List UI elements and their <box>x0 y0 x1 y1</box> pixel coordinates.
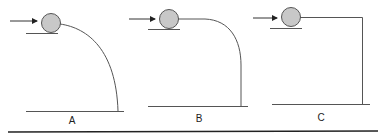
panel-label: C <box>317 112 324 123</box>
trajectory-diagram: A B C <box>0 0 380 133</box>
bottom-rule <box>8 131 378 132</box>
panel-label: B <box>196 113 203 124</box>
panel-label: A <box>69 115 76 126</box>
panel-b: B <box>129 10 248 125</box>
trajectory-path <box>60 24 118 111</box>
ball <box>282 8 301 27</box>
trajectory-path <box>178 19 241 106</box>
ball <box>160 10 179 29</box>
ball <box>42 14 61 33</box>
panel-a: A <box>10 14 124 127</box>
trajectory-path <box>300 18 363 105</box>
panel-c: C <box>253 8 370 124</box>
